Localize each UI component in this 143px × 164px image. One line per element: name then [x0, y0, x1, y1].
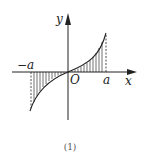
y-axis-label: y [55, 12, 63, 26]
pos-a-label: a [103, 73, 110, 87]
x-axis-label: x [125, 74, 132, 88]
hatch-right [72, 42, 102, 72]
figure-caption: (1) [64, 142, 77, 152]
neg-a-label: −a [17, 58, 34, 72]
odd-function-area-diagram: y x O −a a (1) [0, 0, 143, 164]
origin-label: O [70, 73, 80, 87]
y-axis-arrow-icon [65, 13, 71, 25]
